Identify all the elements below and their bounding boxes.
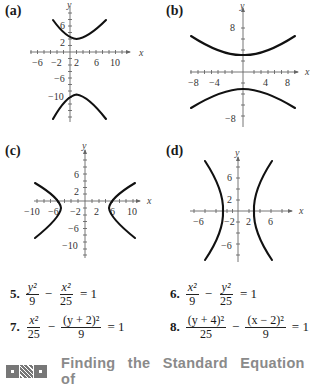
fraction: y²9 bbox=[26, 281, 39, 307]
section-heading: Finding the Standard Equation of bbox=[6, 355, 324, 387]
fraction: x²25 bbox=[26, 314, 42, 340]
fraction: (x − 2)²9 bbox=[245, 314, 285, 340]
fraction: x²9 bbox=[186, 281, 199, 307]
svg-text:2: 2 bbox=[246, 216, 251, 227]
svg-text:−2: −2 bbox=[224, 216, 235, 227]
fraction: (y + 4)²25 bbox=[186, 314, 226, 340]
fraction: (y + 2)²9 bbox=[61, 314, 101, 340]
qr-code-icon[interactable] bbox=[6, 365, 47, 378]
exercise-6: 6. x²9 − y²25 = 1 bbox=[170, 281, 261, 307]
svg-text:x: x bbox=[298, 205, 304, 216]
svg-text:−6: −6 bbox=[221, 240, 232, 251]
svg-text:y: y bbox=[234, 147, 240, 158]
svg-text:6: 6 bbox=[268, 216, 273, 227]
exercise-8: 8. (y + 4)²25 − (x − 2)²9 = 1 bbox=[170, 314, 313, 340]
exercise-5: 5. y²9 − x²25 = 1 bbox=[10, 281, 101, 307]
exercise-7: 7. x²25 − (y + 2)²9 = 1 bbox=[10, 314, 129, 340]
svg-text:−6: −6 bbox=[193, 216, 204, 227]
svg-text:2: 2 bbox=[227, 194, 232, 205]
fraction: y²25 bbox=[218, 281, 234, 307]
section-heading-text: Finding the Standard Equation of bbox=[61, 355, 324, 387]
svg-text:6: 6 bbox=[227, 172, 232, 183]
fraction: x²25 bbox=[58, 281, 74, 307]
hyperbola-right-branch bbox=[254, 161, 272, 260]
